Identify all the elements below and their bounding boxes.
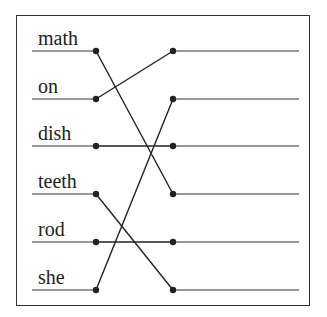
left-dot xyxy=(93,287,99,293)
right-dot xyxy=(170,239,176,245)
left-dot xyxy=(93,191,99,197)
right-dot xyxy=(170,191,176,197)
left-dot xyxy=(93,143,99,149)
left-dot xyxy=(93,48,99,54)
right-dot xyxy=(170,287,176,293)
left-dot xyxy=(93,239,99,245)
left-dot xyxy=(93,96,99,102)
right-dot xyxy=(170,48,176,54)
matching-lines xyxy=(0,0,327,317)
right-dot xyxy=(170,96,176,102)
connector-line xyxy=(96,99,173,290)
right-dot xyxy=(170,143,176,149)
connector-line xyxy=(96,51,173,99)
connector-line xyxy=(96,51,173,194)
